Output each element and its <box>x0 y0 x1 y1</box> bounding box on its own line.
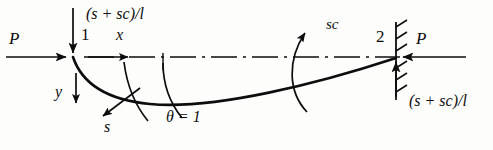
diagram-canvas <box>0 0 493 150</box>
shear-bottom-right-label: (s + sc)/l <box>409 93 467 109</box>
arc-length-label: s <box>104 119 110 135</box>
shear-top-left-label: (s + sc)/l <box>86 6 144 22</box>
node-near-label: 1 <box>81 26 90 43</box>
axial-load-right-label: P <box>416 30 426 47</box>
axial-load-left-label: P <box>9 30 19 47</box>
moment-carryover-label: sc <box>326 17 339 32</box>
beam-column-diagram: P (s + sc)/l 1 x y s θ = 1 sc 2 P (s + s… <box>0 0 493 150</box>
x-axis-label: x <box>116 27 123 43</box>
deflected-beam-curve <box>73 57 396 105</box>
node-far-label: 2 <box>376 28 385 45</box>
y-axis-label: y <box>55 84 62 100</box>
support-hatch-node2 <box>396 20 407 97</box>
rotation-label: θ = 1 <box>166 109 201 125</box>
moment-arrow-sc <box>292 33 307 112</box>
